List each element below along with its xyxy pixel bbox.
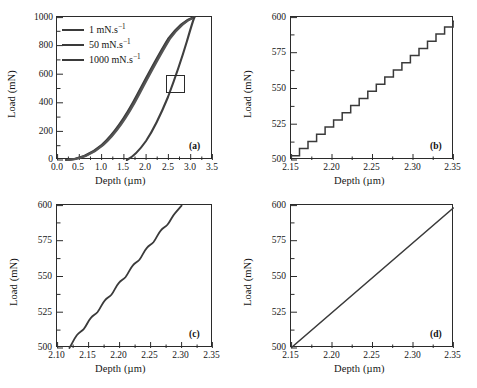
panel-a-ytick-200: 200 bbox=[8, 126, 53, 136]
legend-exponent-0: −1 bbox=[118, 22, 126, 30]
panel-c-ytick-575: 575 bbox=[10, 235, 52, 245]
panel-c-xtick-5: 2.35 bbox=[195, 350, 228, 360]
panel-b-x-ticks bbox=[292, 154, 454, 160]
zoom-region-marker bbox=[166, 75, 185, 93]
panel-a-ylabel: Load (mN) bbox=[6, 70, 17, 118]
panel-b-ytick-575: 575 bbox=[244, 47, 286, 57]
panel-b-xtick-2: 2.25 bbox=[355, 162, 388, 172]
panel-c-xtick-2: 2.20 bbox=[102, 350, 135, 360]
panel-d-xtick-3: 2.30 bbox=[396, 350, 429, 360]
panel-d-x-ticks bbox=[292, 342, 454, 348]
panel-b-xlabel: Depth (µm) bbox=[334, 175, 385, 186]
legend-exponent-1: −1 bbox=[123, 37, 131, 45]
panel-a-legend: 1 mN.s−1 50 mN.s−1 1000 mN.s−1 bbox=[62, 22, 141, 67]
panel-d-xtick-0: 2.15 bbox=[274, 350, 307, 360]
panel-d: 600 575 550 525 500 2.15 2.20 2.25 2.30 … bbox=[238, 194, 477, 388]
legend-item-2: 1000 mN.s−1 bbox=[62, 52, 141, 67]
legend-line-icon bbox=[62, 59, 84, 61]
legend-item-1: 50 mN.s−1 bbox=[62, 37, 141, 52]
figure-container: 1000 800 600 400 200 0 0.0 0.5 1.0 1.5 2… bbox=[0, 0, 477, 388]
panel-d-tag: (d) bbox=[430, 329, 442, 339]
panel-c-plot-area bbox=[56, 204, 212, 347]
panel-c-wavy-curve bbox=[69, 206, 181, 348]
panel-d-plot-area bbox=[290, 204, 453, 347]
panel-c-x-ticks bbox=[58, 342, 213, 348]
panel-d-xlabel: Depth (µm) bbox=[334, 363, 385, 374]
legend-label-1: 50 mN.s−1 bbox=[89, 40, 131, 50]
panel-c-xtick-1: 2.15 bbox=[71, 350, 104, 360]
panel-d-y-ticks bbox=[291, 206, 297, 348]
panel-b-xtick-3: 2.30 bbox=[396, 162, 429, 172]
panel-c-xtick-0: 2.10 bbox=[40, 350, 73, 360]
panel-c-ytick-600: 600 bbox=[10, 200, 52, 210]
panel-d-ytick-575: 575 bbox=[244, 235, 286, 245]
legend-line-icon bbox=[62, 29, 84, 31]
panel-c-ytick-525: 525 bbox=[10, 307, 52, 317]
panel-c-svg bbox=[57, 205, 213, 348]
legend-label-0: 1 mN.s−1 bbox=[89, 25, 126, 35]
panel-a-ytick-800: 800 bbox=[8, 40, 53, 50]
panel-b-y-ticks bbox=[291, 18, 297, 160]
panel-d-smooth-line bbox=[292, 208, 454, 348]
panel-b-ylabel: Load (mN) bbox=[242, 70, 253, 118]
panel-a-ytick-1000: 1000 bbox=[8, 12, 53, 22]
panel-d-xtick-1: 2.20 bbox=[315, 350, 348, 360]
panel-b-xtick-0: 2.15 bbox=[274, 162, 307, 172]
legend-exponent-2: −1 bbox=[133, 52, 141, 60]
panel-d-ylabel: Load (mN) bbox=[242, 258, 253, 306]
legend-label-2: 1000 mN.s−1 bbox=[89, 55, 141, 65]
panel-b-tag: (b) bbox=[430, 141, 442, 151]
panel-a-tag: (a) bbox=[189, 141, 200, 151]
panel-c-xtick-3: 2.25 bbox=[133, 350, 166, 360]
panel-c-tag: (c) bbox=[189, 329, 200, 339]
panel-d-ytick-600: 600 bbox=[244, 200, 286, 210]
panel-c-ylabel: Load (mN) bbox=[8, 258, 19, 306]
panel-b-xtick-4: 2.35 bbox=[436, 162, 469, 172]
panel-b-ytick-525: 525 bbox=[244, 119, 286, 129]
panel-c-y-ticks bbox=[57, 206, 63, 348]
panel-b-xtick-1: 2.20 bbox=[315, 162, 348, 172]
panel-b: 600 575 550 525 500 2.15 2.20 2.25 2.30 … bbox=[238, 0, 477, 194]
panel-d-xtick-2: 2.25 bbox=[355, 350, 388, 360]
panel-c-xlabel: Depth (µm) bbox=[95, 363, 146, 374]
panel-b-staircase-curve bbox=[291, 21, 454, 155]
panel-d-ytick-525: 525 bbox=[244, 307, 286, 317]
legend-item-0: 1 mN.s−1 bbox=[62, 22, 141, 37]
legend-line-icon bbox=[62, 44, 84, 46]
panel-b-ytick-600: 600 bbox=[244, 12, 286, 22]
panel-b-plot-area bbox=[290, 16, 453, 159]
panel-a-xtick-7: 3.5 bbox=[198, 162, 226, 172]
panel-c-xtick-4: 2.30 bbox=[164, 350, 197, 360]
panel-d-svg bbox=[291, 205, 454, 348]
panel-a-xlabel: Depth (µm) bbox=[95, 175, 146, 186]
panel-b-svg bbox=[291, 17, 454, 160]
panel-d-xtick-4: 2.35 bbox=[436, 350, 469, 360]
panel-c: 600 575 550 525 500 2.10 2.15 2.20 2.25 … bbox=[0, 194, 238, 388]
panel-a: 1000 800 600 400 200 0 0.0 0.5 1.0 1.5 2… bbox=[0, 0, 238, 194]
